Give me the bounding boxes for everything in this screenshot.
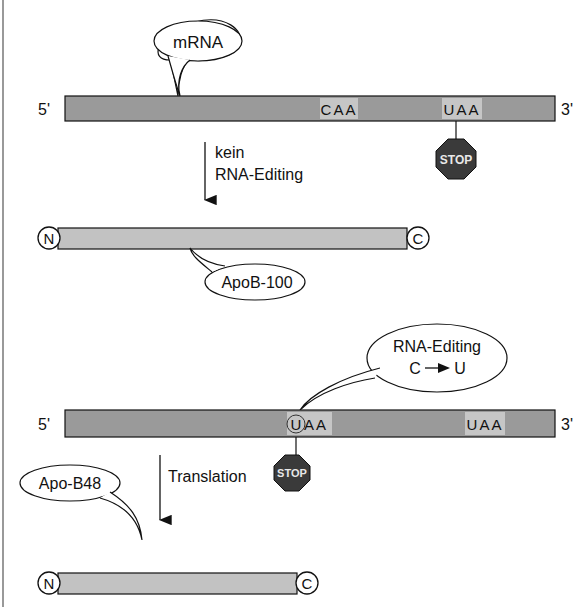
five-prime-label-bottom: 5' bbox=[38, 416, 50, 433]
apob48-label: Apo-B48 bbox=[39, 475, 101, 492]
editing-from-base: C bbox=[409, 360, 421, 377]
apob48-speech-bubble: Apo-B48 bbox=[20, 465, 142, 540]
codon-uaa-top: UAA bbox=[444, 101, 481, 118]
translation-label: Translation bbox=[168, 468, 247, 485]
protein-bar-apob48 bbox=[58, 573, 297, 594]
protein-bar-apob100 bbox=[58, 228, 407, 249]
c-terminus-icon-bottom: C bbox=[296, 572, 318, 594]
svg-text:N: N bbox=[44, 230, 55, 247]
three-prime-label-top: 3' bbox=[561, 101, 573, 118]
rna-editing-speech-bubble: RNA-Editing C U bbox=[300, 324, 507, 410]
n-terminus-icon-top: N bbox=[38, 227, 60, 249]
five-prime-label-top: 5' bbox=[38, 101, 50, 118]
editing-to-base: U bbox=[454, 360, 466, 377]
svg-text:C: C bbox=[302, 575, 313, 592]
three-prime-label-bottom: 3' bbox=[561, 416, 573, 433]
svg-text:N: N bbox=[44, 575, 55, 592]
codon-caa: CAA bbox=[321, 101, 358, 118]
arrow-label-rna-editing: RNA-Editing bbox=[215, 166, 303, 183]
edited-base-u: U bbox=[291, 416, 302, 433]
stop-sign-icon-bottom: STOP bbox=[274, 455, 310, 491]
n-terminus-icon-bottom: N bbox=[38, 572, 60, 594]
codon-uaa-bottom: UAA bbox=[467, 416, 504, 433]
stop-sign-icon-top: STOP bbox=[436, 139, 476, 179]
arrow-label-kein: kein bbox=[215, 144, 244, 161]
svg-text:C: C bbox=[413, 230, 424, 247]
stop-label-bottom: STOP bbox=[277, 467, 307, 479]
codon1-rest: AA bbox=[304, 416, 328, 433]
stop-label-top: STOP bbox=[440, 153, 472, 167]
apob-editing-diagram: mRNA 5' 3' CAA UAA STOP kein RNA-Editing… bbox=[0, 0, 587, 607]
c-terminus-icon-top: C bbox=[407, 227, 429, 249]
mrna-speech-bubble: mRNA bbox=[154, 20, 242, 96]
diagram-canvas: mRNA 5' 3' CAA UAA STOP kein RNA-Editing… bbox=[0, 0, 587, 607]
apob100-label: ApoB-100 bbox=[221, 274, 292, 291]
mrna-label: mRNA bbox=[173, 33, 224, 52]
apob100-speech-bubble: ApoB-100 bbox=[190, 248, 305, 300]
rna-editing-label: RNA-Editing bbox=[393, 338, 481, 355]
